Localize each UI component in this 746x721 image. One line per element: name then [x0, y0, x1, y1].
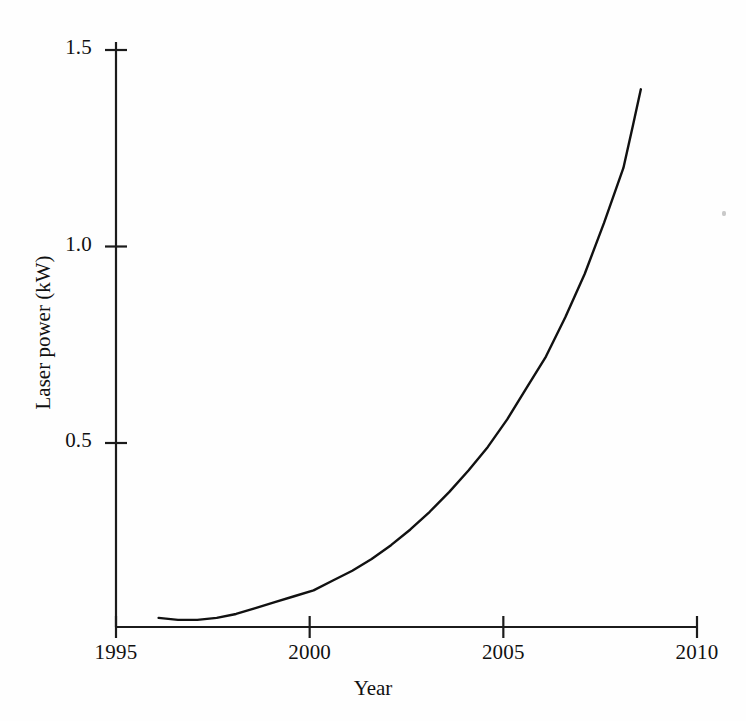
- x-tick-label: 2000: [250, 640, 370, 665]
- plot-area: [0, 0, 746, 721]
- x-tick-label: 2005: [443, 640, 563, 665]
- y-tick-label: 1.5: [0, 35, 92, 60]
- x-tick-label: 2010: [637, 640, 746, 665]
- x-axis-title: Year: [0, 676, 746, 701]
- laser-power-chart-figure: 0.5 1.0 1.5 1995 2000 2005 2010 Year Las…: [0, 0, 746, 721]
- scan-artifact-speck: [722, 211, 726, 216]
- x-tick-label: 1995: [56, 640, 176, 665]
- laser-power-curve: [159, 89, 641, 620]
- y-axis-title: Laser power (kW): [31, 213, 56, 453]
